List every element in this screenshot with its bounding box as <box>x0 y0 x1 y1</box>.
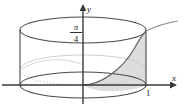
cylinder-diagram: x y π 4 1 <box>0 0 187 109</box>
y-axis-arrow-icon <box>80 4 87 11</box>
pi-over-four-denominator: 4 <box>74 34 79 44</box>
shaded-surface-fill <box>83 31 146 91</box>
pi-over-four-label: π 4 <box>70 22 82 44</box>
x-axis-label: x <box>171 73 176 83</box>
back-curve-faint <box>20 60 83 70</box>
pi-over-four-numerator: π <box>74 22 79 32</box>
curved-surface-region <box>83 31 146 91</box>
curve-extension <box>146 21 178 31</box>
y-axis-label: y <box>86 4 91 14</box>
figure-container: x y π 4 1 <box>0 0 187 109</box>
y-axis: y <box>80 4 91 104</box>
x-tick-label-one: 1 <box>146 88 150 98</box>
